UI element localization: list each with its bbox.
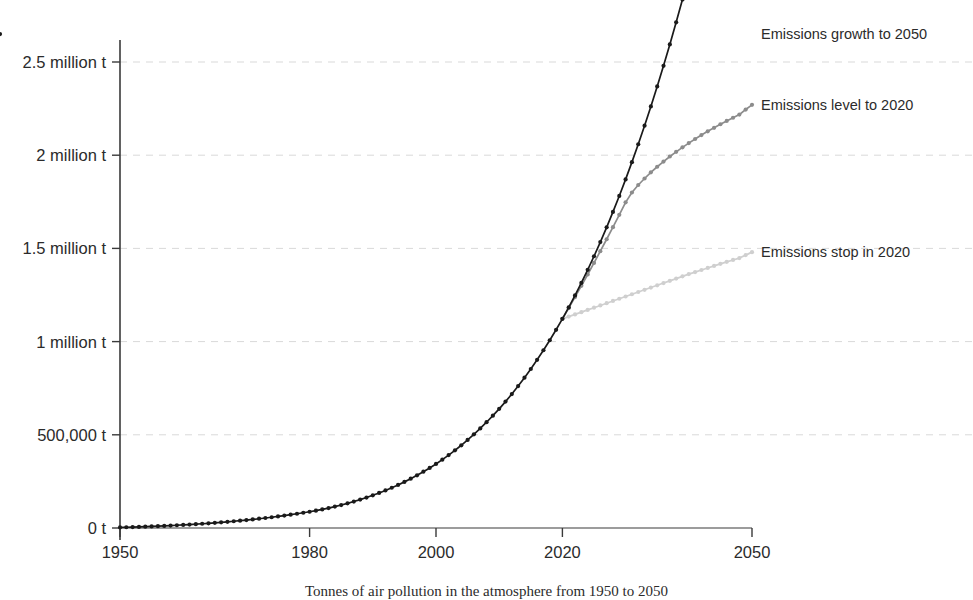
series-marker xyxy=(680,145,684,149)
series-marker xyxy=(598,240,602,244)
series-marker xyxy=(693,270,697,274)
series-marker xyxy=(213,521,217,525)
x-tick-label: 2000 xyxy=(418,543,455,561)
series-marker xyxy=(605,225,609,229)
series-marker xyxy=(725,119,729,123)
series-marker xyxy=(668,279,672,283)
series-marker xyxy=(409,477,413,481)
series-marker xyxy=(371,493,375,497)
series-marker xyxy=(143,525,147,529)
series-marker xyxy=(529,367,533,371)
series-marker xyxy=(535,358,539,362)
series-marker xyxy=(510,392,514,396)
series-marker xyxy=(497,407,501,411)
y-axis-ticks: 0 t500,000 t1 million t1.5 million t2 mi… xyxy=(23,53,120,537)
series-marker xyxy=(282,513,286,517)
series-marker xyxy=(364,495,368,499)
series-marker xyxy=(567,305,571,309)
series-marker xyxy=(522,376,526,380)
series-marker xyxy=(750,103,754,107)
series-marker xyxy=(289,513,293,517)
series-marker xyxy=(668,42,672,46)
series-marker xyxy=(232,519,236,523)
series-marker xyxy=(617,194,621,198)
series-marker xyxy=(554,328,558,332)
series-marker xyxy=(674,20,678,24)
series-marker xyxy=(624,200,628,204)
series-marker xyxy=(611,299,615,303)
series-marker xyxy=(326,506,330,510)
series-marker xyxy=(661,159,665,163)
x-tick-label: 2020 xyxy=(544,543,581,561)
x-axis-ticks: 19501980200020202050 xyxy=(102,528,771,561)
series-marker xyxy=(630,160,634,164)
series-marker xyxy=(206,521,210,525)
series-marker xyxy=(605,237,609,241)
series-marker xyxy=(680,274,684,278)
series-marker xyxy=(680,0,684,2)
series-marker xyxy=(649,285,653,289)
series-marker xyxy=(592,254,596,258)
y-tick-label: 2 million t xyxy=(36,146,106,164)
chart-figure: 0 t500,000 t1 million t1.5 million t2 mi… xyxy=(0,0,973,600)
series-marker xyxy=(421,470,425,474)
series-marker xyxy=(219,520,223,524)
series-marker xyxy=(636,142,640,146)
series-marker xyxy=(390,486,394,490)
series-marker xyxy=(175,523,179,527)
series-marker xyxy=(181,523,185,527)
series-marker xyxy=(624,177,628,181)
series-2: Emissions stop in 2020 xyxy=(560,244,910,321)
series-marker xyxy=(131,525,135,529)
series-marker xyxy=(592,261,596,265)
series-marker xyxy=(168,523,172,527)
series-marker xyxy=(459,443,463,447)
series-marker xyxy=(718,262,722,266)
series-label-0: Emissions growth to 2050 xyxy=(761,26,927,42)
series-marker xyxy=(655,84,659,88)
series-marker xyxy=(301,511,305,515)
series-marker xyxy=(579,310,583,314)
series-marker xyxy=(453,448,457,452)
series-marker xyxy=(333,505,337,509)
series-marker xyxy=(118,525,122,529)
series-marker xyxy=(699,268,703,272)
series-marker xyxy=(617,297,621,301)
series-marker xyxy=(434,462,438,466)
series-marker xyxy=(314,509,318,513)
series-label-1: Emissions level to 2020 xyxy=(761,97,913,113)
series-marker xyxy=(238,519,242,523)
series-marker xyxy=(137,525,141,529)
series-marker xyxy=(415,473,419,477)
series-marker xyxy=(478,426,482,430)
figure-caption: Tonnes of air pollution in the atmospher… xyxy=(0,583,973,600)
series-marker xyxy=(706,266,710,270)
series-marker xyxy=(642,124,646,128)
series-marker xyxy=(624,294,628,298)
series-line xyxy=(120,0,752,527)
series-marker xyxy=(668,154,672,158)
series-marker xyxy=(744,253,748,257)
series-marker xyxy=(649,170,653,174)
series-marker xyxy=(308,510,312,514)
series-marker xyxy=(655,283,659,287)
series-marker xyxy=(744,107,748,111)
series-marker xyxy=(396,483,400,487)
x-tick-label: 2050 xyxy=(734,543,771,561)
x-tick-label: 1950 xyxy=(102,543,139,561)
series-marker xyxy=(573,293,577,297)
y-tick-label: 1.5 million t xyxy=(23,239,107,257)
series-marker xyxy=(276,514,280,518)
series-marker xyxy=(377,491,381,495)
series-marker xyxy=(573,312,577,316)
series-marker xyxy=(447,453,451,457)
series-marker xyxy=(339,503,343,507)
series-marker xyxy=(687,272,691,276)
series-marker xyxy=(244,518,248,522)
series-marker xyxy=(731,116,735,120)
series-0: Emissions growth to 2050 xyxy=(0,0,927,530)
series-marker xyxy=(712,126,716,130)
series-marker xyxy=(586,268,590,272)
series-marker xyxy=(162,524,166,528)
series-marker xyxy=(541,348,545,352)
